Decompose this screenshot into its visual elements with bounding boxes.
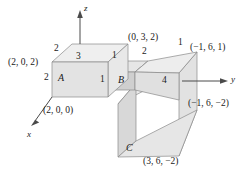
coordinate-diagram-figure: z y x A B C (2, 0, 2) (2, 0, 0) (0, 3, 2… xyxy=(0,0,247,180)
dim-label-b-top-edge: 1 xyxy=(112,51,117,61)
coord-label-3-6-n2: (3, 6, −2) xyxy=(143,157,178,167)
dim-label-c-top: 1 xyxy=(178,38,183,48)
axis-z-arrowhead xyxy=(77,10,83,18)
solid-label-b: B xyxy=(118,75,124,85)
dim-label-a-height: 2 xyxy=(44,73,49,83)
axis-y-arrowhead xyxy=(220,78,228,84)
coord-label-n1-6-n2: (−1, 6, −2) xyxy=(188,99,229,109)
diagram-canvas xyxy=(0,0,247,180)
coord-label-2-0-0: (2, 0, 0) xyxy=(43,106,73,116)
axis-z xyxy=(77,10,83,44)
dim-label-c-height: 4 xyxy=(162,76,167,86)
coord-label-2-0-2: (2, 0, 2) xyxy=(8,58,38,68)
axis-x-arrowhead xyxy=(31,120,39,126)
coord-label-n1-6-1: (−1, 6, 1) xyxy=(190,43,225,53)
coord-label-0-3-2: (0, 3, 2) xyxy=(128,33,158,43)
dim-label-b-height: 1 xyxy=(100,75,105,85)
solid-label-a: A xyxy=(58,73,64,83)
axis-label-x: x xyxy=(27,130,31,139)
axis-label-y: y xyxy=(231,75,235,84)
dim-label-a-top-left: 2 xyxy=(54,44,59,54)
solid-label-c: C xyxy=(126,143,133,153)
dim-label-b-depth: 2 xyxy=(142,47,147,57)
dim-label-a-top-front: 3 xyxy=(76,52,81,62)
connector-bar-front xyxy=(135,72,179,100)
axis-label-z: z xyxy=(84,4,88,13)
